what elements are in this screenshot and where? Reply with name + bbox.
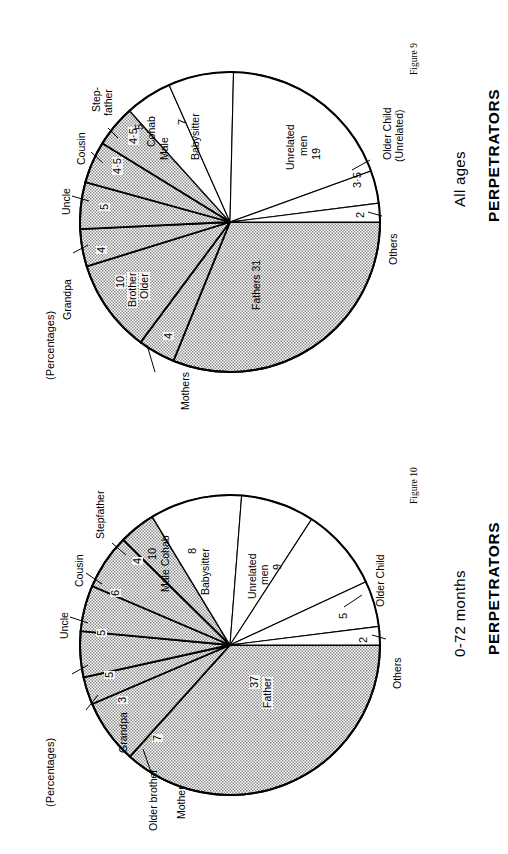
- figure-9-caption: Figure 9: [410, 43, 420, 75]
- slice-value-older-child: 5: [338, 613, 349, 619]
- slice-label-uncle: Uncle: [61, 188, 72, 215]
- slice-label-unrelated-men-1: Unrelated: [247, 553, 258, 599]
- slice-label-older-brother-1: Older: [139, 272, 150, 300]
- slice-value-unrelated-men: 19: [311, 148, 322, 160]
- figure-9-percent-note: (Percentages): [45, 311, 56, 380]
- slice-label-mother: Mother: [176, 786, 187, 819]
- slice-label-mothers: Mothers: [180, 372, 191, 410]
- slice-value-grandpa: 5: [104, 671, 115, 679]
- slice-label-older-brother-2: Brother: [127, 272, 138, 308]
- figure-9-pie-svg: [0, 0, 508, 427]
- slice-label-fathers: Fathers 31: [251, 260, 262, 310]
- slice-label-cousin: Cousin: [76, 132, 87, 165]
- slice-label-others: Others: [392, 657, 403, 689]
- slice-label-male-cohab-1: Male: [159, 137, 170, 160]
- slice-value-unrelated-men: 9: [272, 564, 283, 570]
- slice-value-stepfather: 4: [132, 557, 143, 565]
- slice-label-others: Others: [388, 233, 399, 265]
- slice-value-older-brother: 10: [115, 275, 126, 289]
- figure-10-pie-svg: [0, 427, 508, 854]
- figure-10-caption: Figure 10: [410, 467, 420, 504]
- slice-label-unrelated-men-1: Unrelated: [285, 124, 296, 170]
- slice-label-older-child: Older Child: [375, 554, 386, 607]
- figure-9-title: PERPETRATORS: [486, 89, 502, 222]
- slice-label-stepfather-2: father: [103, 89, 114, 116]
- slice-value-cousin: 6: [110, 589, 121, 597]
- slice-label-grandpa: Grandpa: [62, 279, 73, 320]
- slice-label-babysitter: Babysitter: [190, 113, 201, 160]
- slice-label-father: Father: [262, 677, 273, 709]
- figure-page: PERPETRATORS All ages Figure 9 (Percenta…: [0, 0, 508, 854]
- slice-value-mothers: 4: [163, 332, 174, 340]
- slice-value-cousin: 4·5: [112, 157, 123, 175]
- slice-label-unrelated-men-2: men: [259, 565, 270, 585]
- slice-value-grandpa: 4: [96, 246, 107, 254]
- slice-value-others: 2: [358, 637, 369, 643]
- slice-label-babysitter: Babysitter: [200, 548, 211, 595]
- figure-9-panel: PERPETRATORS All ages Figure 9 (Percenta…: [0, 0, 508, 427]
- figure-10-panel: PERPETRATORS 0-72 months Figure 10 (Perc…: [0, 427, 508, 854]
- slice-label-grandpa: Grandpa: [118, 712, 129, 753]
- slice-value-older-brother: 3: [117, 696, 128, 704]
- slice-value-father: 37: [249, 675, 260, 689]
- slice-label-cousin: Cousin: [74, 554, 85, 587]
- slice-label-uncle: Uncle: [59, 612, 70, 639]
- slice-label-male-cohab-2: Cohab: [146, 116, 157, 147]
- slice-value-uncle: 5: [99, 203, 110, 211]
- slice-value-others: 2: [355, 212, 366, 218]
- slice-label-unrelated-men-2: men: [298, 136, 309, 156]
- slice-label-male-cohab: Male Cohab: [160, 535, 171, 592]
- slice-value-babysitter: 7: [177, 119, 188, 125]
- slice-label-stepfather-1: Step-: [91, 87, 102, 112]
- figure-9-subtitle: All ages: [452, 151, 467, 207]
- figure-10-title: PERPETRATORS: [486, 522, 502, 655]
- slice-value-mother: 7: [152, 734, 163, 742]
- slice-label-older-child-2: (Unrelated): [394, 109, 405, 162]
- slice-label-older-child-1: Older Child: [382, 107, 393, 160]
- slice-label-older-brother: Older brother: [148, 769, 159, 831]
- slice-value-male-cohab: 5: [134, 124, 145, 130]
- figure-10-percent-note: (Percentages): [45, 738, 56, 807]
- slice-label-stepfather: Stepfather: [95, 491, 106, 539]
- slice-value-older-child: 3·5: [352, 172, 363, 188]
- slice-value-uncle: 5: [96, 629, 107, 637]
- slice-value-male-cohab: 10: [147, 548, 158, 560]
- figure-10-subtitle: 0-72 months: [452, 570, 467, 657]
- slice-value-babysitter: 8: [187, 548, 198, 554]
